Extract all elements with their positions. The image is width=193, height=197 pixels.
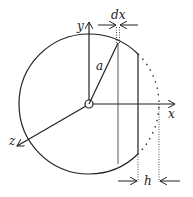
y-axis-label: y <box>76 19 84 33</box>
z-axis-label: z <box>8 134 16 148</box>
radius-label: a <box>96 59 103 73</box>
radius-line <box>89 43 118 104</box>
h-label: h <box>144 174 152 188</box>
sphere-cap-diagram: y x z a dx h <box>0 0 193 197</box>
z-axis <box>17 106 86 146</box>
dx-label: dx <box>111 8 126 22</box>
x-axis-label: x <box>168 107 175 121</box>
